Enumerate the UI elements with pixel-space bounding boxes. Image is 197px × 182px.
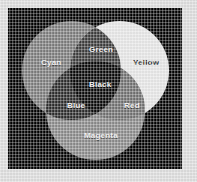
venn-label-green: Green (89, 45, 113, 54)
venn-label-magenta: Magenta (84, 131, 118, 140)
figure-root: Cyan Yellow Green Black Blue Red Magenta (0, 0, 197, 182)
venn-label-red: Red (124, 101, 140, 110)
venn-label-cyan: Cyan (41, 58, 61, 67)
venn-diagram-panel: Cyan Yellow Green Black Blue Red Magenta (8, 8, 182, 169)
venn-label-yellow: Yellow (133, 58, 159, 67)
venn-overlap-black-shape (70, 61, 121, 120)
venn-label-black: Black (89, 80, 111, 89)
venn-label-blue: Blue (67, 101, 85, 110)
